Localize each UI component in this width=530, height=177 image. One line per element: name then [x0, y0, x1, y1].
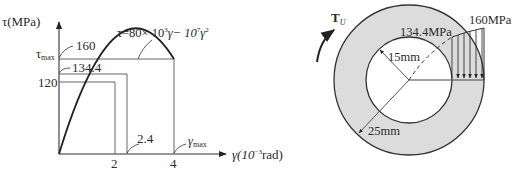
x-tick-2-4: 2.4: [137, 131, 154, 146]
x-axis-label: γ(10−3rad): [232, 147, 283, 162]
torque-label: TU: [331, 10, 347, 27]
y-tick-120: 120: [38, 75, 58, 90]
leader-134-4: [59, 68, 70, 73]
leader-equation: [138, 40, 152, 59]
inner-stress-label: 134.4MPa: [400, 25, 452, 39]
tau-max-label: τmax: [36, 47, 55, 62]
leader-160: [59, 46, 73, 58]
outer-stress-label: 160MPa: [469, 13, 512, 27]
outer-radius-label: 25mm: [368, 124, 400, 138]
y-tick-160: 160: [76, 38, 96, 53]
x-tick-4: 4: [170, 156, 177, 171]
torque-arrow-icon: [317, 30, 334, 62]
x-tick-2: 2: [111, 156, 118, 171]
inner-radius-label: 15mm: [388, 50, 420, 64]
figure-canvas: τ(MPa) τmax 160 134.4 120 τ=80× 103γ− 10…: [0, 0, 530, 177]
y-tick-134-4: 134.4: [72, 60, 102, 75]
stress-strain-chart: τ(MPa) τmax 160 134.4 120 τ=80× 103γ− 10…: [2, 14, 283, 171]
gamma-max-label: γmax: [188, 134, 207, 149]
leader-gamma-max: [174, 144, 186, 153]
y-axis-label: τ(MPa): [2, 14, 40, 29]
equation-label: τ=80× 103γ− 107γ2: [117, 26, 209, 40]
tube-cross-section: 15mm 25mm 134.4MPa 160MPa TU: [317, 5, 512, 155]
